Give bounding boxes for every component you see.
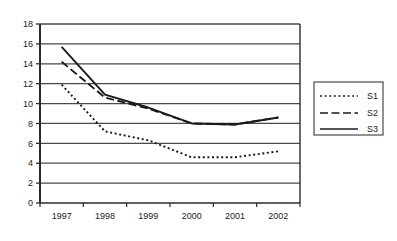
x-tick-label: 2000	[182, 211, 202, 221]
legend-label-s3: S3	[367, 124, 378, 134]
x-tick-label: 1997	[52, 211, 72, 221]
legend-label-s2: S2	[367, 108, 378, 118]
legend: S1S2S3	[314, 82, 383, 135]
y-tick-label: 18	[23, 19, 33, 29]
x-axis-tick-labels: 199719981999200020012002	[52, 211, 289, 221]
y-tick-label: 0	[28, 198, 33, 208]
y-tick-label: 14	[23, 59, 33, 69]
y-tick-label: 4	[28, 158, 33, 168]
x-tick-label: 1999	[138, 211, 158, 221]
legend-label-s1: S1	[367, 91, 378, 101]
y-tick-label: 12	[23, 79, 33, 89]
x-tick-label: 2001	[225, 211, 245, 221]
plot-background	[40, 24, 300, 203]
y-tick-label: 16	[23, 39, 33, 49]
chart-svg: 024681012141618 199719981999200020012002…	[0, 0, 397, 241]
x-tick-label: 2002	[268, 211, 288, 221]
y-axis-tick-labels: 024681012141618	[23, 19, 33, 208]
line-chart: 024681012141618 199719981999200020012002…	[0, 0, 397, 241]
y-tick-label: 6	[28, 139, 33, 149]
y-tick-label: 10	[23, 99, 33, 109]
y-tick-label: 2	[28, 178, 33, 188]
y-tick-label: 8	[28, 119, 33, 129]
x-tick-label: 1998	[95, 211, 115, 221]
